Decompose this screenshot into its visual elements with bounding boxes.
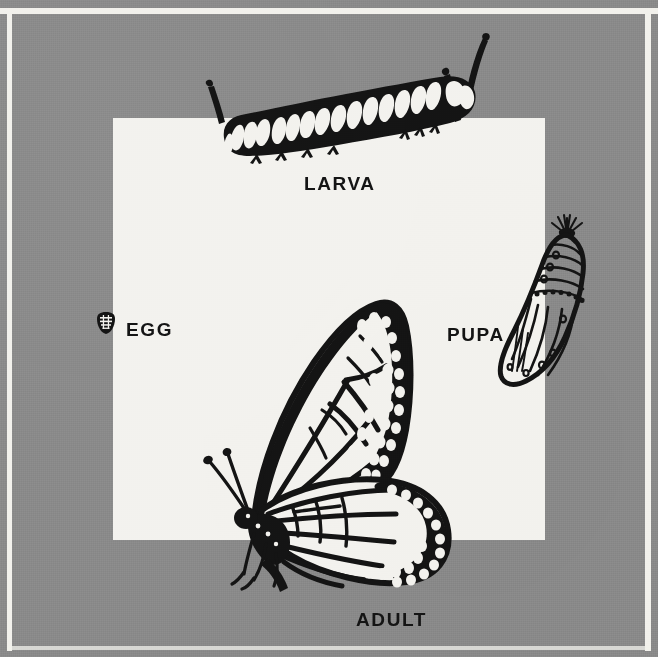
butterfly-egg-icon <box>96 311 116 335</box>
stage-label-egg: EGG <box>126 319 173 341</box>
monarch-chrysalis-illustration <box>490 207 594 399</box>
frame-rule-top <box>0 8 658 14</box>
frame-rule-left <box>7 8 12 651</box>
stage-label-pupa: PUPA <box>447 324 505 346</box>
monarch-caterpillar-illustration <box>178 28 508 173</box>
stage-label-adult: ADULT <box>356 609 427 631</box>
figure-page: LARVA EGG PUPA ADULT <box>0 0 658 657</box>
monarch-butterfly-illustration <box>196 262 466 592</box>
stage-label-larva: LARVA <box>304 173 376 195</box>
frame-rule-right <box>645 8 651 651</box>
frame-rule-bottom <box>7 646 651 650</box>
